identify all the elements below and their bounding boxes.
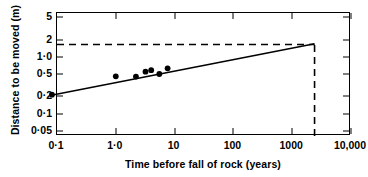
data-point [133, 74, 139, 80]
x-axis-tick-top [351, 13, 352, 19]
y-axis-tick-right [343, 130, 349, 131]
fit-line [51, 44, 314, 96]
x-axis-tick [292, 128, 293, 134]
y-tick-label: 5 [12, 10, 52, 22]
y-axis-tick-labels: 521·00·50·20·10·05 [8, 12, 52, 135]
y-axis-tick-right [343, 96, 349, 97]
y-tick-label: 0·5 [12, 67, 52, 79]
y-tick-label: 0·2 [12, 89, 52, 101]
x-tick-label: 100 [224, 139, 242, 151]
x-axis-tick [233, 128, 234, 134]
x-tick-label: 10,000 [334, 139, 366, 151]
x-axis-tick [174, 128, 175, 134]
y-axis-tick [57, 17, 63, 18]
data-point [148, 67, 154, 73]
x-axis-tick-labels: 0·11·010100100010,000 [56, 139, 350, 155]
x-tick-label: 0·1 [48, 139, 63, 151]
data-point [113, 73, 119, 79]
y-axis-tick [57, 96, 63, 97]
y-axis-tick [57, 130, 63, 131]
x-axis-title: Time before fall of rock (years) [56, 158, 350, 170]
y-tick-label: 1·0 [12, 50, 52, 62]
y-axis-tick-right [343, 113, 349, 114]
y-axis-tick-right [343, 73, 349, 74]
y-tick-label: 0·05 [12, 124, 52, 136]
data-point [165, 65, 171, 71]
x-axis-tick [351, 128, 352, 134]
x-axis-tick-top [174, 13, 175, 19]
y-axis-tick [57, 113, 63, 114]
plot-area [56, 12, 350, 135]
y-axis-tick-right [343, 17, 349, 18]
y-axis-tick [57, 39, 63, 40]
data-point [49, 92, 55, 98]
data-point [156, 71, 162, 77]
y-tick-label: 2 [12, 33, 52, 45]
chart-figure: Distance to be moved (m) 521·00·50·20·10… [0, 0, 368, 177]
x-axis-tick [115, 128, 116, 134]
x-axis-tick-top [233, 13, 234, 19]
y-tick-label: 0·1 [12, 107, 52, 119]
y-axis-tick [57, 56, 63, 57]
y-axis-tick-right [343, 56, 349, 57]
plot-canvas [57, 13, 351, 136]
y-axis-tick-right [343, 39, 349, 40]
data-point [143, 69, 149, 75]
y-axis-tick [57, 73, 63, 74]
x-tick-label: 10 [168, 139, 180, 151]
x-axis-tick-top [292, 13, 293, 19]
x-tick-label: 1·0 [107, 139, 122, 151]
x-axis-tick-top [115, 13, 116, 19]
x-tick-label: 1000 [280, 139, 303, 151]
